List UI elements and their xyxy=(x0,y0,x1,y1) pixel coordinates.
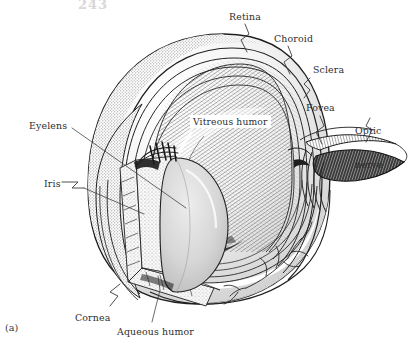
label-optic-nerve: Optic nerve xyxy=(355,102,383,193)
eye-diagram-graphic xyxy=(0,0,413,344)
label-choroid: Choroid xyxy=(274,33,313,44)
label-aqueous-humor: Aqueous humor xyxy=(117,326,194,337)
label-retina: Retina xyxy=(229,11,261,22)
label-fovea: Fovea xyxy=(306,102,335,113)
optic-nerve-bundle-group xyxy=(300,127,407,212)
label-iris: Iris xyxy=(44,178,61,189)
label-optic-nerve-line2: nerve xyxy=(355,159,383,170)
figure-index-label: (a) xyxy=(5,322,18,333)
label-optic-nerve-line1: Optic xyxy=(355,125,383,136)
label-eyelens: Eyelens xyxy=(29,120,67,131)
label-cornea: Cornea xyxy=(75,312,110,323)
label-sclera: Sclera xyxy=(313,64,344,75)
eye-anatomy-figure: 243 xyxy=(0,0,413,344)
label-vitreous-humor: Vitreous humor xyxy=(190,115,271,128)
